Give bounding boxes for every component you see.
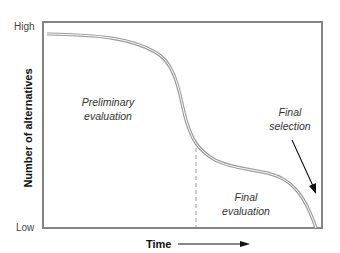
annotation-preliminary-1: Preliminary: [82, 96, 135, 108]
chart-canvas: High Low Number of alternatives Time Pre…: [0, 0, 340, 253]
x-axis-arrow-icon: [178, 241, 250, 247]
annotation-preliminary-2: evaluation: [84, 110, 132, 122]
x-axis-title: Time: [146, 238, 171, 250]
annotation-final-eval-2: evaluation: [222, 205, 270, 217]
final-selection-arrow-icon: [292, 140, 316, 194]
annotation-final-selection-2: selection: [269, 120, 311, 132]
y-tick-high: High: [14, 21, 35, 32]
y-axis-title: Number of alternatives: [22, 68, 34, 187]
y-tick-low: Low: [16, 222, 35, 233]
annotation-final-selection-1: Final: [279, 106, 302, 118]
annotation-final-eval-1: Final: [235, 191, 258, 203]
